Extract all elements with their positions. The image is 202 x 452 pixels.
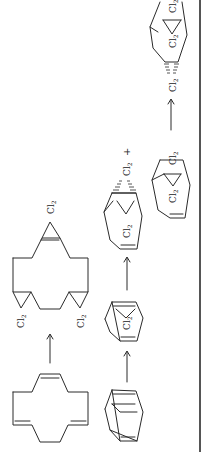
- reaction-scheme-svg: Cl2 Cl2 Cl2 Cl2: [0, 0, 202, 452]
- trichlorocyclopropane-product: [13, 222, 88, 309]
- cyclododecatriene-structure: [13, 374, 88, 442]
- cl2-label-step2-hashed: Cl2: [122, 162, 133, 176]
- reaction-arrow-3: [124, 257, 130, 290]
- reaction-arrow-1: [47, 334, 53, 363]
- reaction-arrow-4: [168, 99, 174, 130]
- hashed-bonds-top: [164, 64, 179, 73]
- cl2-label-bottom-right: Cl2: [76, 314, 87, 328]
- cl2-label-step2-inner: Cl2: [122, 224, 133, 238]
- cl2-label-isomer-inner: Cl2: [168, 189, 179, 203]
- plus-sign: +: [121, 148, 132, 156]
- bicyclic-diene-structure: [105, 390, 143, 441]
- cl2-label-top: Cl2: [46, 200, 57, 214]
- cl2-label-cage-middle: Cl2: [168, 34, 179, 48]
- cl2-label-bottom-left: Cl2: [16, 314, 27, 328]
- page-edge-line: [199, 0, 201, 452]
- cl2-label-step1: Cl2: [122, 316, 133, 330]
- cl2-label-cage-top: Cl2: [168, 0, 179, 13]
- cl2-label-isomer-outer: Cl2: [168, 151, 179, 165]
- dichlorocyclopropane-isomer: [152, 160, 190, 218]
- cl2-label-cage-hashed: Cl2: [168, 78, 179, 92]
- hashed-bonds: [113, 181, 136, 190]
- reaction-arrow-2: [124, 351, 130, 382]
- reaction-scheme-figure: Cl2 Cl2 Cl2 Cl2: [0, 0, 202, 452]
